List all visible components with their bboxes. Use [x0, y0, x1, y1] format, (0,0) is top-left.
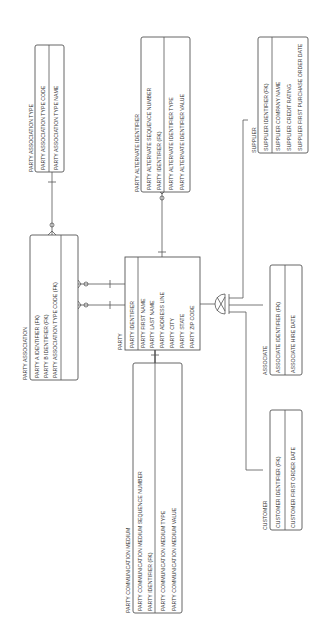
key-attribute: PARTY A IDENTIFIER (FK): [34, 315, 40, 378]
entity-party[interactable]: PARTY PARTY IDENTIFIER PARTY FIRST NAME …: [117, 257, 200, 350]
entity-title: SUPPLIER: [251, 127, 257, 153]
attribute: PARTY ADDRESS LINE: [159, 292, 165, 348]
entity-party-alternate-identifier[interactable]: PARTY ALTERNATE IDENTIFIER PARTY ALTERNA…: [134, 37, 190, 192]
attribute: PARTY ASSOCIATION TYPE NAME: [53, 85, 59, 170]
key-attribute: CUSTOMER IDENTIFIER (FK): [275, 456, 281, 528]
attribute: SUPPLIER CREDIT RATING: [286, 84, 292, 151]
entity-customer[interactable]: CUSTOMER CUSTOMER IDENTIFIER (FK) CUSTOM…: [262, 410, 302, 530]
entity-title: ASSOCIATE: [262, 345, 268, 375]
attribute: ASSOCIATE HIRE DATE: [290, 314, 296, 373]
key-attribute: PARTY ASSOCIATION TYPE CODE: [40, 85, 46, 170]
rel-party-to-association-a: [78, 280, 125, 288]
attribute: SUPPLIER FIRST PURCHASE ORDER DATE: [297, 43, 303, 151]
attribute: PARTY LAST NAME: [149, 300, 155, 348]
entity-party-association[interactable]: PARTY ASSOCIATION PARTY A IDENTIFIER (FK…: [22, 235, 78, 380]
subtype-discriminator: [200, 120, 263, 470]
entity-title: PARTY ALTERNATE IDENTIFIER: [134, 114, 140, 192]
attribute: PARTY CITY: [169, 317, 175, 348]
attribute: CUSTOMER FIRST ORDER DATE: [290, 446, 296, 528]
key-attribute: ASSOCIATE IDENTIFIER (FK): [275, 302, 281, 373]
key-attribute: PARTY ASSOCIATION TYPE CODE (FK): [52, 282, 58, 378]
rel-party-to-association-b: [78, 301, 125, 309]
attribute: PARTY ALTERNATE IDENTIFIER VALUE: [179, 93, 185, 190]
entity-title: PARTY COMMUNICATION MEDIUM: [125, 528, 131, 613]
key-attribute: PARTY ALTERNATE SEQUENCE NUMBER: [146, 88, 152, 190]
attribute: PARTY COMMUNICATION MEDIUM TYPE: [160, 510, 166, 611]
attribute: PARTY FIRST NAME: [140, 298, 146, 348]
entity-party-association-type[interactable]: PARTY ASSOCIATION TYPE PARTY ASSOCIATION…: [28, 45, 64, 172]
key-attribute: PARTY B IDENTIFIER (FK): [43, 314, 49, 378]
attribute: PARTY STATE: [179, 313, 185, 348]
entity-title: CUSTOMER: [262, 500, 268, 530]
rel-party-to-alternate-identifier: [158, 190, 166, 257]
attribute: PARTY ZIP CODE: [189, 305, 195, 348]
entity-title: PARTY ASSOCIATION TYPE: [28, 104, 34, 172]
key-attribute: PARTY COMMUNICATION MEDIUM SEQUENCE NUMB…: [137, 471, 143, 611]
key-attribute: PARTY IDENTIFIER (FK): [156, 131, 162, 190]
entity-title: PARTY: [117, 333, 123, 350]
er-diagram: PARTY ASSOCIATION TYPE PARTY ASSOCIATION…: [0, 0, 314, 635]
entity-party-communication-medium[interactable]: PARTY COMMUNICATION MEDIUM PARTY COMMUNI…: [125, 363, 182, 613]
entity-title: PARTY ASSOCIATION: [22, 327, 28, 380]
entity-supplier[interactable]: SUPPLIER SUPPLIER IDENTIFIER (FK) SUPPLI…: [251, 37, 308, 153]
entity-associate[interactable]: ASSOCIATE ASSOCIATE IDENTIFIER (FK) ASSO…: [262, 265, 302, 375]
key-attribute: PARTY IDENTIFIER: [129, 301, 135, 348]
key-attribute: PARTY IDENTIFIER (FK): [147, 552, 153, 611]
attribute: SUPPLIER COMPANY NAME: [275, 81, 281, 151]
attribute: PARTY COMMUNICATION MEDIUM VALUE: [171, 507, 177, 611]
key-attribute: SUPPLIER IDENTIFIER (FK): [263, 83, 269, 151]
attribute: PARTY ALTERNATE IDENTIFIER TYPE: [168, 97, 174, 190]
rel-association-type-to-association: [48, 172, 56, 235]
